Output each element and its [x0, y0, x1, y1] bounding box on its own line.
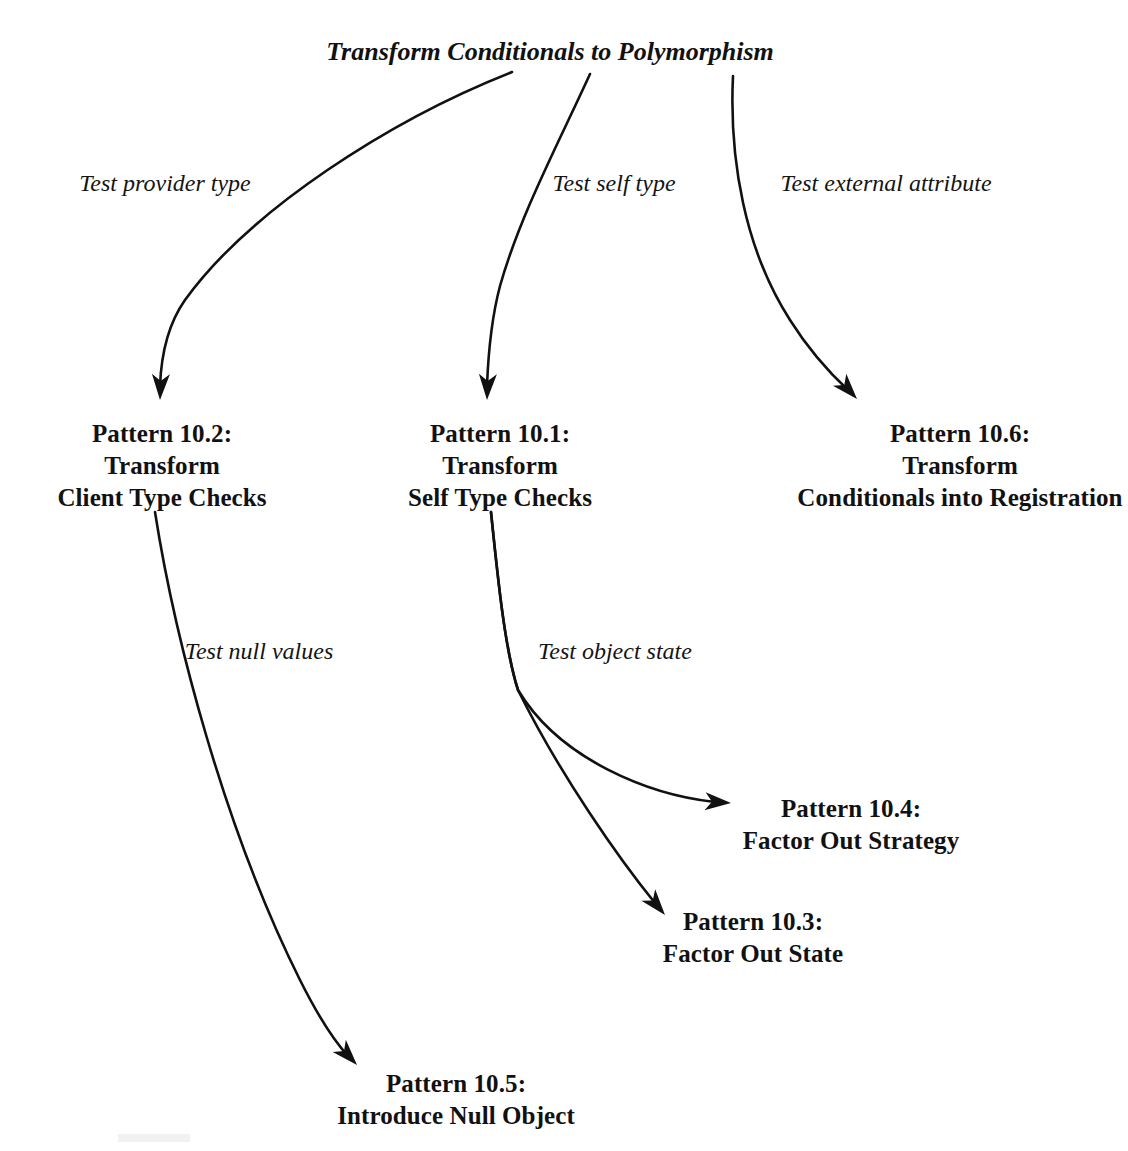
node-pattern-10-4: Pattern 10.4:Factor Out Strategy [743, 793, 960, 857]
node-label-line: Transform [797, 450, 1122, 482]
node-pattern-10-1: Pattern 10.1:TransformSelf Type Checks [408, 418, 592, 514]
diagram-canvas: Transform Conditionals to Polymorphism P… [0, 0, 1128, 1151]
edge-label-edge-test-self-type: Test self type [552, 169, 675, 197]
edge-path-edge-test-object-state-state [491, 512, 655, 903]
node-pattern-10-2: Pattern 10.2:TransformClient Type Checks [57, 418, 266, 514]
node-pattern-10-5: Pattern 10.5:Introduce Null Object [337, 1068, 575, 1132]
edge-label-edge-test-provider-type: Test provider type [79, 169, 251, 197]
node-label-line: Factor Out State [663, 938, 843, 970]
edge-path-edge-test-null-values [155, 512, 348, 1056]
node-label-line: Transform [57, 450, 266, 482]
node-label-line: Pattern 10.3: [663, 906, 843, 938]
node-label-line: Client Type Checks [57, 482, 266, 514]
edge-path-edge-test-external-attribute [732, 76, 849, 391]
node-label-line: Pattern 10.2: [57, 418, 266, 450]
edge-label-edge-test-null-values: Test null values [185, 637, 333, 665]
diagram-root-title: Transform Conditionals to Polymorphism [326, 36, 774, 68]
node-label-line: Conditionals into Registration [797, 482, 1122, 514]
node-pattern-10-3: Pattern 10.3:Factor Out State [663, 906, 843, 970]
scan-artifact [118, 1134, 190, 1142]
node-label-line: Pattern 10.6: [797, 418, 1122, 450]
node-label-line: Pattern 10.4: [743, 793, 960, 825]
node-label-line: Introduce Null Object [337, 1100, 575, 1132]
node-pattern-10-6: Pattern 10.6:TransformConditionals into … [797, 418, 1122, 514]
node-label-line: Pattern 10.5: [337, 1068, 575, 1100]
edge-path-edge-test-provider-type [160, 72, 512, 386]
edge-path-edge-test-self-type [487, 74, 590, 386]
edge-label-edge-test-external-attribute: Test external attribute [780, 169, 991, 197]
node-label-line: Factor Out Strategy [743, 825, 960, 857]
edge-label-edge-test-object-state-strategy: Test object state [538, 637, 692, 665]
node-label-line: Transform [408, 450, 592, 482]
node-label-line: Pattern 10.1: [408, 418, 592, 450]
node-label-line: Self Type Checks [408, 482, 592, 514]
